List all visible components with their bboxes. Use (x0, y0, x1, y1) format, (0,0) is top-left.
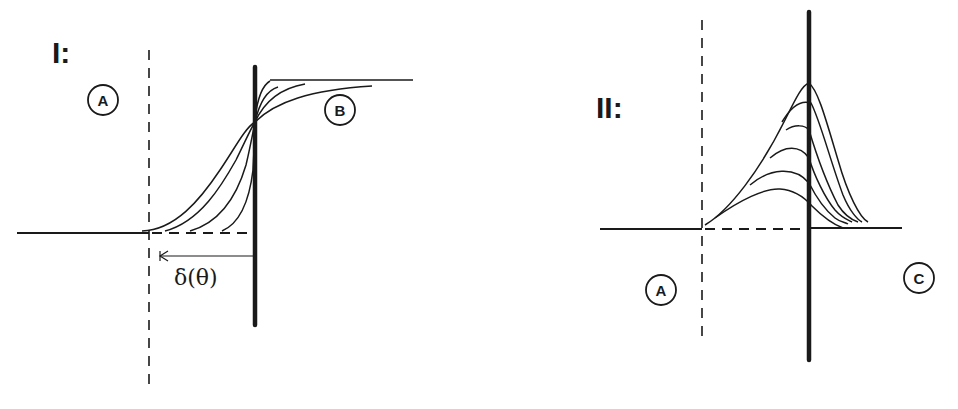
panel-2-region-c-label: C (914, 270, 925, 287)
panel-1: I: δ(θ) (17, 36, 413, 392)
panel-1-region-a: A (88, 85, 118, 115)
panel-2-curves (705, 83, 868, 228)
panel-2-region-a: A (646, 275, 676, 305)
panel-1-region-a-label: A (98, 92, 109, 109)
panel-1-curve-1-lower (142, 122, 255, 231)
diagram-canvas: I: δ(θ) (0, 0, 958, 409)
panel-1-curves (142, 80, 413, 231)
panel-2-region-c: C (904, 263, 934, 293)
panel-2-label: II: (596, 91, 623, 124)
panel-2: II: A C (596, 12, 934, 360)
panel-1-curve-3-lower (190, 122, 255, 231)
panel-2-region-a-label: A (656, 282, 667, 299)
panel-2-curve-1 (705, 83, 868, 225)
panel-2-curve-6 (715, 189, 843, 228)
panel-1-delta-arrow (160, 251, 254, 261)
panel-1-delta-label: δ(θ) (174, 265, 218, 290)
panel-1-label: I: (52, 36, 70, 69)
panel-1-region-b-label: B (335, 102, 346, 119)
panel-1-region-b: B (325, 95, 355, 125)
panel-2-curve-5 (750, 171, 848, 224)
